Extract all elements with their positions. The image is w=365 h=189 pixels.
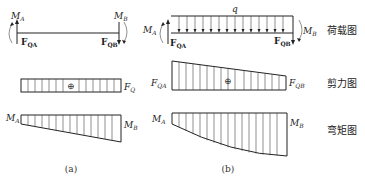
moment-arc-a-icon [160,24,163,43]
label-fqa: FQA [150,78,167,89]
label-fqa: FQA [170,38,187,50]
row-label-load: 荷载图 [327,25,357,36]
positive-sign-icon: ⊕ [224,76,232,86]
label-fqa: FQA [21,37,38,49]
label-fqb: FQB [288,78,305,89]
beam-diagrams: MA MB FQA FQB ⊕ FQ [0,0,365,189]
distributed-load-arrows [178,16,285,33]
moment-arc-b-icon [124,22,127,42]
arrow-up-icon [166,19,170,24]
panel-b-moment-diagram: MA MB [151,113,304,156]
arrow-down-icon [291,40,295,45]
label-mb: MB [113,11,128,22]
moment-arc-b-icon [299,20,302,40]
panel-b-load-diagram: q MA MB FQA FQB [142,4,317,50]
label-ma: MA [5,113,20,124]
arc-arrowhead-icon [297,38,301,42]
moment-trapezoid [21,115,121,142]
panel-a-moment-diagram: MA MB [5,113,138,142]
label-q: q [232,4,238,14]
label-ma: MA [151,114,166,125]
moment-arc-a-icon [9,24,12,43]
row-label-shear: 剪力图 [327,77,357,89]
label-fq: FQ [123,82,135,93]
row-label-moment: 弯矩图 [327,124,357,136]
arc-arrowhead-icon [10,22,14,26]
label-fqb: FQB [101,37,118,49]
panel-a-shear-diagram: ⊕ FQ [21,79,135,93]
label-mb: MB [302,26,317,37]
label-mb: MB [123,120,138,131]
label-ma: MA [10,11,25,22]
label-mb: MB [289,118,304,129]
row-labels: 荷载图 剪力图 弯矩图 [327,25,357,136]
label-ma: MA [142,25,157,36]
positive-sign-icon: ⊕ [67,81,75,91]
panel-a-load-diagram: MA MB FQA FQB [9,11,128,49]
panel-b: q MA MB FQA FQB [142,4,317,174]
arc-arrowhead-icon [122,40,126,44]
panel-b-shear-diagram: ⊕ FQA FQB [150,61,305,90]
panel-a: MA MB FQA FQB ⊕ FQ [5,11,138,174]
caption-b: (b) [222,164,235,174]
caption-a: (a) [65,164,77,174]
arc-arrowhead-icon [161,22,165,26]
label-fqb: FQB [274,36,291,48]
